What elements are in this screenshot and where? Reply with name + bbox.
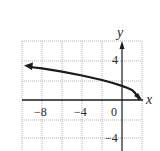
y-axis <box>120 41 125 151</box>
x-tick-label-neg4: −4 <box>74 105 87 119</box>
y-axis-label: y <box>115 25 124 40</box>
x-axis-label: x <box>145 92 153 107</box>
grid <box>22 41 142 151</box>
y-tick-label-4: 4 <box>112 53 118 67</box>
x-tick-label-0: 0 <box>111 105 117 119</box>
y-axis-arrow-icon <box>120 41 125 49</box>
graph: y x −8 −4 0 4 −4 <box>0 0 160 151</box>
y-tick-label-neg4: −4 <box>105 131 118 145</box>
curve-left-arrow-icon <box>24 63 33 71</box>
x-tick-label-neg8: −8 <box>34 105 47 119</box>
